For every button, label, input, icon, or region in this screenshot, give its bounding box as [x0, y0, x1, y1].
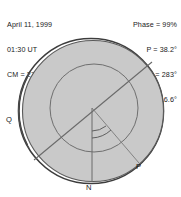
disk-svg — [0, 0, 181, 197]
diagram-screenshot: April 11, 1999 01:30 UT CM = 276° Phase … — [0, 0, 181, 197]
direction-label-p: P — [136, 163, 141, 171]
direction-label-q: Q — [6, 116, 12, 124]
planet-disk-diagram: Q N P — [0, 0, 181, 197]
direction-label-n: N — [86, 184, 91, 192]
